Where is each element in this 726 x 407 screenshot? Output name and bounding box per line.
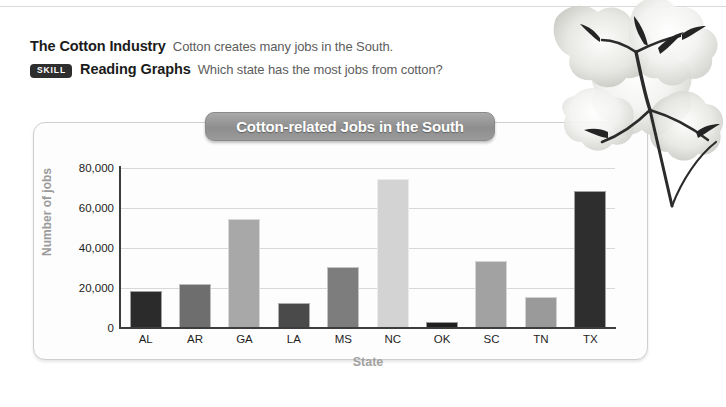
bar-ar bbox=[179, 284, 211, 327]
bar-column bbox=[417, 168, 466, 327]
bar-series bbox=[121, 168, 615, 327]
y-tick-label: 80,000 bbox=[52, 162, 114, 174]
x-axis-title: State bbox=[121, 355, 615, 369]
y-axis-tick-labels: 020,00040,00060,00080,000 bbox=[48, 168, 114, 328]
x-tick-label-la: LA bbox=[269, 333, 318, 345]
textbook-figure-page: The Cotton Industry Cotton creates many … bbox=[0, 0, 726, 407]
bar-column bbox=[467, 168, 516, 327]
chart-title-banner: Cotton-related Jobs in the South bbox=[205, 112, 495, 141]
skill-question: Which state has the most jobs from cotto… bbox=[198, 63, 443, 78]
x-tick-label-ga: GA bbox=[220, 333, 269, 345]
y-tick-label: 60,000 bbox=[52, 202, 114, 214]
bar-column bbox=[220, 168, 269, 327]
page-top-divider bbox=[0, 6, 726, 7]
x-tick-label-tn: TN bbox=[516, 333, 565, 345]
x-tick-label-ok: OK bbox=[417, 333, 466, 345]
x-tick-label-tx: TX bbox=[566, 333, 615, 345]
bar-nc bbox=[377, 179, 409, 327]
skill-badge: SKILL bbox=[30, 64, 72, 78]
x-tick-label-nc: NC bbox=[368, 333, 417, 345]
bar-ms bbox=[327, 267, 359, 327]
caption-line-two: SKILL Reading Graphs Which state has the… bbox=[30, 61, 550, 79]
bar-tx bbox=[574, 191, 606, 327]
bar-column bbox=[566, 168, 615, 327]
caption-line-one: The Cotton Industry Cotton creates many … bbox=[30, 38, 550, 55]
bar-al bbox=[130, 291, 162, 327]
x-axis-line bbox=[119, 327, 616, 329]
skill-title: Reading Graphs bbox=[80, 61, 191, 78]
bar-column bbox=[269, 168, 318, 327]
y-tick-label: 20,000 bbox=[52, 282, 114, 294]
x-axis-tick-labels: ALARGALAMSNCOKSCTNTX bbox=[121, 333, 615, 351]
bar-column bbox=[319, 168, 368, 327]
x-tick-label-al: AL bbox=[121, 333, 170, 345]
caption-title: The Cotton Industry bbox=[30, 38, 166, 55]
bar-ga bbox=[228, 219, 260, 327]
chart-title: Cotton-related Jobs in the South bbox=[236, 118, 464, 135]
bar-column bbox=[368, 168, 417, 327]
caption-description: Cotton creates many jobs in the South. bbox=[173, 40, 393, 55]
bar-sc bbox=[475, 261, 507, 327]
y-tick-label: 0 bbox=[52, 322, 114, 334]
bar-column bbox=[121, 168, 170, 327]
x-tick-label-sc: SC bbox=[467, 333, 516, 345]
y-tick-label: 40,000 bbox=[52, 242, 114, 254]
bar-tn bbox=[525, 297, 557, 327]
y-axis-line bbox=[119, 166, 121, 329]
x-tick-label-ms: MS bbox=[319, 333, 368, 345]
x-tick-label-ar: AR bbox=[170, 333, 219, 345]
bar-column bbox=[170, 168, 219, 327]
bar-la bbox=[278, 303, 310, 327]
figure-caption-block: The Cotton Industry Cotton creates many … bbox=[30, 38, 550, 79]
bar-column bbox=[516, 168, 565, 327]
